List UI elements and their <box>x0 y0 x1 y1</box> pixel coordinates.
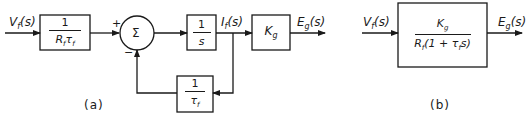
label-arg: (s) <box>374 15 390 29</box>
input-signal-label-a: Vf(s) <box>9 16 36 31</box>
den-mid: (1 + τ <box>424 37 458 50</box>
den-sub: f <box>197 102 199 110</box>
minus-sign: − <box>124 47 133 58</box>
label-main: E <box>297 15 305 29</box>
label-main: V <box>9 15 17 29</box>
gain-denominator: Rfτf <box>55 31 74 48</box>
input-signal-label-b: Vf(s) <box>363 16 390 31</box>
den-sub: f <box>72 40 74 48</box>
caption-b: (b) <box>430 99 450 111</box>
label-arg: (s) <box>227 15 243 29</box>
plus-sign: + <box>112 18 121 29</box>
field-gain-block: 1 Rfτf <box>40 15 90 50</box>
label-main: V <box>363 15 371 29</box>
feedback-block: 1 τf <box>177 76 213 112</box>
transfer-numerator: Kg <box>437 18 449 34</box>
field-current-label: If(s) <box>221 16 243 31</box>
caption-a: (a) <box>84 99 104 111</box>
label-arg: (s) <box>310 15 326 29</box>
output-signal-label-a: Eg(s) <box>297 16 325 31</box>
integrator-numerator: 1 <box>198 19 205 32</box>
den-r: R <box>55 33 63 46</box>
label-arg: (s) <box>20 15 36 29</box>
label-arg: (s) <box>511 15 527 29</box>
integrator-denominator: s <box>199 33 205 47</box>
kg-label: Kg <box>265 25 278 40</box>
integrator-block: 1 s <box>187 15 216 50</box>
sigma-symbol: Σ <box>132 27 140 39</box>
feedback-numerator: 1 <box>192 78 199 91</box>
label-main: E <box>498 15 506 29</box>
output-signal-label-b: Eg(s) <box>498 16 526 31</box>
gain-numerator: 1 <box>62 17 69 30</box>
transfer-denominator: Rf(1 + τfs) <box>414 35 471 52</box>
num-main: K <box>437 17 444 30</box>
feedback-denominator: τf <box>190 92 199 109</box>
den-r: R <box>414 37 422 50</box>
den-end: s) <box>461 37 471 50</box>
transfer-function-block: Kg Rf(1 + τfs) <box>398 3 487 67</box>
generator-gain-block: Kg <box>252 15 290 50</box>
label-sub: g <box>272 31 277 40</box>
num-sub: g <box>444 24 448 32</box>
